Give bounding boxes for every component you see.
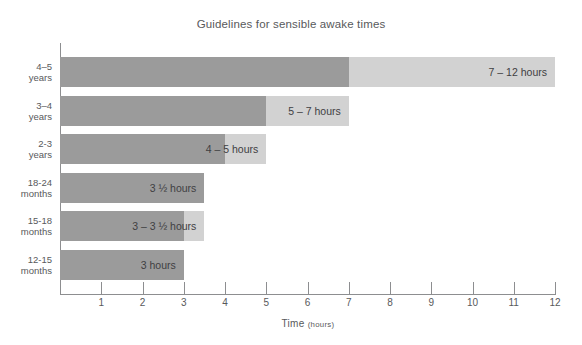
category-label-line1: 18-24 xyxy=(0,177,52,188)
category-label-line2: months xyxy=(0,265,52,276)
bar-value-label: 3 – 3 ½ hours xyxy=(60,211,196,241)
x-tick-mark xyxy=(390,282,391,295)
x-tick-label: 11 xyxy=(502,297,526,308)
x-tick-label: 12 xyxy=(543,297,567,308)
bar-value-label: 3 ½ hours xyxy=(60,173,196,203)
category-label: 12-15months xyxy=(0,254,52,276)
category-label: 3–4years xyxy=(0,100,52,122)
category-label-line1: 12-15 xyxy=(0,254,52,265)
x-tick-label: 9 xyxy=(419,297,443,308)
category-label-line1: 3–4 xyxy=(0,100,52,111)
bar-value-label: 7 – 12 hours xyxy=(60,57,547,87)
x-tick-mark xyxy=(431,282,432,295)
category-label-line2: years xyxy=(0,111,52,122)
category-label: 2-3years xyxy=(0,138,52,160)
category-label-line1: 15-18 xyxy=(0,215,52,226)
x-tick-label: 6 xyxy=(296,297,320,308)
x-tick-label: 5 xyxy=(254,297,278,308)
x-tick-label: 2 xyxy=(131,297,155,308)
x-tick-label: 10 xyxy=(461,297,485,308)
x-axis-title-main: Time xyxy=(282,318,305,329)
category-label: 18-24months xyxy=(0,177,52,199)
category-label-line2: years xyxy=(0,149,52,160)
category-label: 4–5years xyxy=(0,61,52,83)
x-tick-mark xyxy=(101,282,102,295)
x-tick-label: 3 xyxy=(172,297,196,308)
x-tick-label: 4 xyxy=(213,297,237,308)
x-tick-mark xyxy=(473,282,474,295)
x-tick-mark xyxy=(555,282,556,295)
category-label-line2: years xyxy=(0,72,52,83)
category-label-line1: 4–5 xyxy=(0,61,52,72)
chart-page: Guidelines for sensible awake times 7 – … xyxy=(0,0,582,345)
x-tick-mark xyxy=(143,282,144,295)
category-label-line2: months xyxy=(0,188,52,199)
x-tick-mark xyxy=(349,282,350,295)
x-tick-mark xyxy=(266,282,267,295)
category-label-line1: 2-3 xyxy=(0,138,52,149)
x-tick-mark xyxy=(308,282,309,295)
x-tick-label: 7 xyxy=(337,297,361,308)
category-label-line2: months xyxy=(0,226,52,237)
category-label: 15-18months xyxy=(0,215,52,237)
x-axis-title: Time (hours) xyxy=(60,318,556,329)
x-tick-mark xyxy=(225,282,226,295)
x-tick-mark xyxy=(184,282,185,295)
x-tick-mark xyxy=(514,282,515,295)
x-tick-label: 8 xyxy=(378,297,402,308)
bar-value-label: 3 hours xyxy=(60,250,176,280)
bar-value-label: 4 – 5 hours xyxy=(60,134,258,164)
bar-value-label: 5 – 7 hours xyxy=(60,96,341,126)
x-axis-title-unit: (hours) xyxy=(308,320,335,329)
chart-title: Guidelines for sensible awake times xyxy=(0,18,582,30)
x-tick-label: 1 xyxy=(89,297,113,308)
